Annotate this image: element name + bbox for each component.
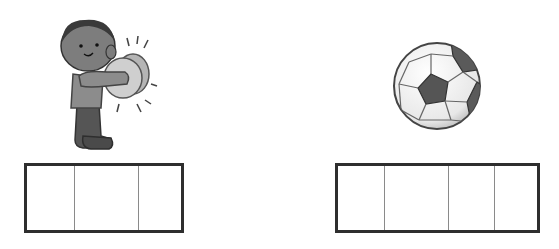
boy-with-cymbals-icon (55, 12, 160, 152)
letter-cell[interactable] (449, 166, 495, 230)
letter-cell[interactable] (139, 166, 181, 230)
soccer-ball-icon (391, 40, 483, 132)
letter-cell[interactable] (27, 166, 75, 230)
letter-cell[interactable] (75, 166, 139, 230)
letter-cell[interactable] (495, 166, 537, 230)
letter-box-1 (24, 163, 184, 233)
letter-cell[interactable] (385, 166, 449, 230)
letter-box-2 (335, 163, 540, 233)
letter-cell[interactable] (338, 166, 385, 230)
